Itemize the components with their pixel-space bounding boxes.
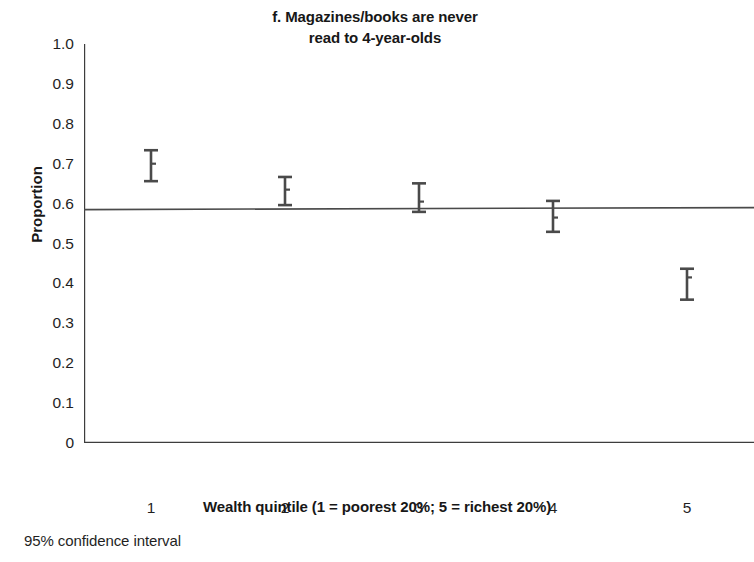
y-axis-tick-label: 0.5 <box>52 235 74 253</box>
y-axis-tick-label: 0 <box>65 434 74 452</box>
data-point-4 <box>546 200 560 232</box>
chart-title: f. Magazines/books are never read to 4-y… <box>150 6 600 48</box>
data-point-2 <box>278 176 292 205</box>
chart-title-line-1: f. Magazines/books are never <box>150 6 600 27</box>
y-axis-tick-label: 0.2 <box>52 354 74 372</box>
data-point-1 <box>144 150 158 182</box>
figure: f. Magazines/books are never read to 4-y… <box>0 0 754 562</box>
plot-area: 00.10.20.30.40.50.60.70.80.91.0 12345 <box>84 44 754 443</box>
y-axis-tick-label: 0.6 <box>52 195 74 213</box>
y-axis-tick-label: 0.9 <box>52 75 74 93</box>
data-point-5 <box>680 268 694 300</box>
y-axis-tick-label: 0.4 <box>52 274 74 292</box>
y-axis-tick-label: 0.7 <box>52 155 74 173</box>
y-axis-tick-label: 1.0 <box>52 35 74 53</box>
y-axis-tick-label: 0.3 <box>52 314 74 332</box>
chart-canvas <box>84 44 754 443</box>
y-axis-tick-label: 0.1 <box>52 394 74 412</box>
footnote-ci: 95% confidence interval <box>24 532 181 549</box>
y-axis-title: Proportion <box>28 135 45 275</box>
y-axis-tick-label: 0.8 <box>52 115 74 133</box>
x-axis-title: Wealth quintile (1 = poorest 20%; 5 = ri… <box>0 498 754 515</box>
